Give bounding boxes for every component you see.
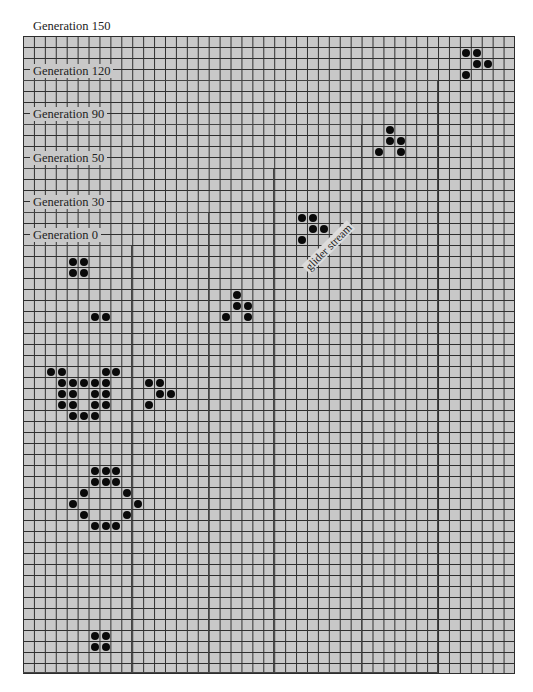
generation-150-label: Generation 150 (30, 19, 113, 33)
generation-region-box (23, 80, 438, 673)
live-cell (58, 401, 66, 409)
live-cell (222, 313, 230, 321)
generation-region-box (23, 168, 274, 673)
live-cell (102, 368, 110, 376)
live-cell (69, 390, 77, 398)
live-cell (112, 522, 120, 530)
live-cell (102, 379, 110, 387)
live-cell (145, 379, 153, 387)
live-cell (69, 269, 77, 277)
live-cell (375, 148, 383, 156)
generation-120-label: Generation 120 (30, 64, 113, 78)
live-cell (102, 522, 110, 530)
life-grid (23, 36, 515, 674)
live-cell (473, 49, 481, 57)
live-cell (386, 137, 394, 145)
live-cell (386, 126, 394, 134)
generation-region-box (23, 245, 132, 673)
live-cell (233, 291, 241, 299)
live-cell (298, 236, 306, 244)
live-cell (123, 489, 131, 497)
live-cell (102, 632, 110, 640)
live-cell (397, 148, 405, 156)
live-cell (69, 500, 77, 508)
live-cell (112, 467, 120, 475)
live-cell (123, 511, 131, 519)
live-cell (80, 379, 88, 387)
live-cell (91, 632, 99, 640)
live-cell (233, 302, 241, 310)
live-cell (80, 269, 88, 277)
live-cell (91, 467, 99, 475)
live-cell (91, 643, 99, 651)
live-cell (244, 313, 252, 321)
live-cell (58, 390, 66, 398)
live-cell (91, 401, 99, 409)
live-cell (473, 60, 481, 68)
live-cell (156, 379, 164, 387)
live-cell (102, 390, 110, 398)
live-cell (69, 401, 77, 409)
live-cell (91, 390, 99, 398)
live-cell (91, 478, 99, 486)
live-cell (320, 225, 328, 233)
generation-0-label: Generation 0 (30, 228, 101, 242)
live-cell (80, 489, 88, 497)
live-cell (69, 258, 77, 266)
generation-region-box (23, 212, 209, 673)
live-cell (167, 390, 175, 398)
live-cell (102, 643, 110, 651)
live-cell (462, 49, 470, 57)
live-cell (462, 71, 470, 79)
live-cell (112, 368, 120, 376)
live-cell (80, 258, 88, 266)
live-cell (91, 379, 99, 387)
live-cell (102, 467, 110, 475)
generation-30-label: Generation 30 (30, 195, 107, 209)
live-cell (298, 214, 306, 222)
live-cell (80, 412, 88, 420)
live-cell (244, 302, 252, 310)
live-cell (102, 478, 110, 486)
generation-90-label: Generation 90 (30, 107, 107, 121)
live-cell (309, 214, 317, 222)
live-cell (58, 368, 66, 376)
live-cell (397, 137, 405, 145)
live-cell (58, 379, 66, 387)
live-cell (102, 313, 110, 321)
live-cell (47, 368, 55, 376)
live-cell (80, 511, 88, 519)
generation-50-label: Generation 50 (30, 151, 107, 165)
live-cell (91, 313, 99, 321)
live-cell (134, 500, 142, 508)
live-cell (69, 412, 77, 420)
live-cell (91, 412, 99, 420)
live-cell (102, 401, 110, 409)
live-cell (156, 390, 164, 398)
live-cell (91, 522, 99, 530)
live-cell (484, 60, 492, 68)
live-cell (309, 225, 317, 233)
live-cell (145, 401, 153, 409)
live-cell (69, 379, 77, 387)
live-cell (112, 478, 120, 486)
